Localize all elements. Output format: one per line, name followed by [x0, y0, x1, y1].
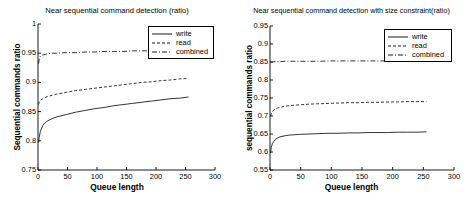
- legend-swatch-dashdot-icon: [387, 51, 409, 59]
- x-tick-label: 0: [23, 172, 53, 181]
- y-tick-label: 0.7: [258, 111, 268, 120]
- chart-panel-right: Near sequential command detection with s…: [234, 0, 469, 204]
- x-tick-label: 50: [286, 172, 316, 181]
- y-tick-label: 0.9: [26, 77, 36, 86]
- y-tick-label: 0.75: [254, 93, 268, 102]
- y-tick-label: 0.6: [258, 147, 268, 156]
- x-tick-label: 200: [141, 172, 171, 181]
- y-tick-label: 0.85: [254, 57, 268, 66]
- legend-swatch-dashdot-icon: [151, 48, 173, 56]
- y-tick-label: 0.8: [258, 75, 268, 84]
- x-tick-label: 0: [255, 172, 285, 181]
- legend-label: read: [412, 41, 427, 50]
- legend-swatch-solid-icon: [151, 30, 173, 38]
- legend-item-read: read: [151, 38, 210, 47]
- x-tick-label: 250: [171, 172, 201, 181]
- legend-label: combined: [412, 50, 444, 59]
- legend-label: write: [176, 29, 192, 38]
- legend-swatch-dashed-icon: [151, 39, 173, 47]
- y-tick-label: 1: [32, 19, 36, 28]
- legend-right: writereadcombined: [384, 29, 452, 62]
- x-tick-label: 300: [439, 172, 469, 181]
- x-tick-label: 250: [408, 172, 438, 181]
- x-tick-label: 300: [200, 172, 230, 181]
- y-tick-label: 0.85: [22, 107, 36, 116]
- x-tick-label: 150: [347, 172, 377, 181]
- series-line-read: [39, 78, 189, 104]
- x-tick-label: 100: [316, 172, 346, 181]
- y-tick-label: 0.95: [22, 48, 36, 57]
- legend-item-write: write: [387, 32, 448, 41]
- y-axis-label-left: Sequential commands ratio: [13, 24, 22, 170]
- legend-left: writereadcombined: [148, 26, 214, 59]
- legend-item-read: read: [387, 41, 448, 50]
- legend-label: combined: [176, 47, 208, 56]
- x-axis-label-left: Queue length: [0, 182, 234, 192]
- legend-label: write: [412, 32, 428, 41]
- y-tick-label: 0.8: [26, 136, 36, 145]
- legend-swatch-dashed-icon: [387, 42, 409, 50]
- x-tick-label: 200: [378, 172, 408, 181]
- legend-item-write: write: [151, 29, 210, 38]
- x-tick-label: 150: [112, 172, 142, 181]
- y-tick-label: 0.65: [254, 129, 268, 138]
- figure-two-line-charts: Near sequential command detection (ratio…: [0, 0, 469, 204]
- legend-item-combined: combined: [151, 47, 210, 56]
- series-line-write: [39, 97, 189, 143]
- y-tick-label: 0.9: [258, 39, 268, 48]
- series-line-read: [271, 102, 427, 116]
- chart-panel-left: Near sequential command detection (ratio…: [0, 0, 234, 204]
- legend-swatch-solid-icon: [387, 33, 409, 41]
- x-tick-label: 50: [53, 172, 83, 181]
- x-tick-label: 100: [82, 172, 112, 181]
- series-line-write: [271, 132, 427, 153]
- legend-item-combined: combined: [387, 50, 448, 59]
- x-axis-label-right: Queue length: [234, 182, 469, 192]
- legend-label: read: [176, 38, 191, 47]
- y-tick-label: 0.95: [254, 21, 268, 30]
